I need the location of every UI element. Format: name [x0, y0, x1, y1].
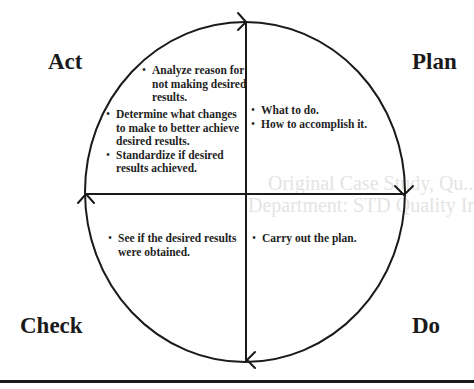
check-bullet-1: See if the desired results were obtained…	[108, 232, 250, 259]
phase-label-do: Do	[412, 314, 440, 337]
act-bullet-3: Standardize if desired results achieved.	[106, 149, 246, 176]
phase-label-plan: Plan	[412, 50, 457, 73]
plan-bullet-2: How to accomplish it.	[251, 118, 401, 132]
do-bullet-1: Carry out the plan.	[252, 232, 402, 246]
phase-label-check: Check	[20, 314, 83, 337]
plan-bullet-list: What to do. How to accomplish it.	[251, 104, 401, 131]
phase-label-act: Act	[48, 50, 82, 73]
do-bullet-list: Carry out the plan.	[252, 232, 402, 246]
check-bullet-list: See if the desired results were obtained…	[108, 232, 250, 259]
plan-bullet-1: What to do.	[251, 104, 401, 118]
act-bullet-1: Analyze reason for not making desired re…	[142, 64, 252, 105]
act-bullet-2: Determine what changes to make to better…	[106, 108, 246, 149]
act-bullet-list-2: Determine what changes to make to better…	[106, 108, 246, 176]
bottom-rule	[0, 380, 474, 383]
act-bullet-list: Analyze reason for not making desired re…	[142, 64, 252, 105]
arrow-left-icon	[247, 352, 255, 368]
